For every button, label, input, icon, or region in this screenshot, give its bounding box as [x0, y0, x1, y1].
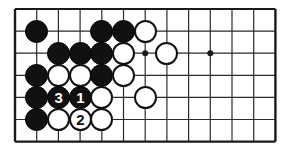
black-stone-b9[interactable] [25, 86, 48, 109]
black-stone-b8[interactable] [90, 64, 113, 87]
white-stone-w5[interactable] [69, 64, 92, 87]
white-stone-move-2[interactable]: 2 [69, 108, 92, 131]
star-point-icon [207, 50, 213, 56]
white-stone-w2[interactable] [112, 42, 135, 65]
white-stone-w9[interactable] [47, 108, 70, 131]
black-stone-b7[interactable] [25, 64, 48, 87]
black-stone-b4[interactable] [47, 42, 70, 65]
stone-move-number: 3 [48, 87, 69, 108]
stone-move-number: 2 [71, 110, 90, 129]
white-stone-w4[interactable] [47, 64, 70, 87]
go-board-diagram: 312 [0, 0, 281, 152]
stone-move-number: 1 [70, 87, 91, 108]
black-stone-move-3[interactable]: 3 [47, 86, 70, 109]
black-stone-move-1[interactable]: 1 [69, 86, 92, 109]
black-stone-b2[interactable] [90, 20, 113, 43]
black-stone-b3[interactable] [112, 20, 135, 43]
white-stone-w6[interactable] [112, 64, 135, 87]
white-stone-w3[interactable] [155, 42, 178, 65]
white-stone-w8[interactable] [134, 86, 157, 109]
white-stone-w1[interactable] [134, 20, 157, 43]
black-stone-b5[interactable] [69, 42, 92, 65]
black-stone-b1[interactable] [25, 20, 48, 43]
star-point-icon [142, 50, 148, 56]
black-stone-b6[interactable] [90, 42, 113, 65]
